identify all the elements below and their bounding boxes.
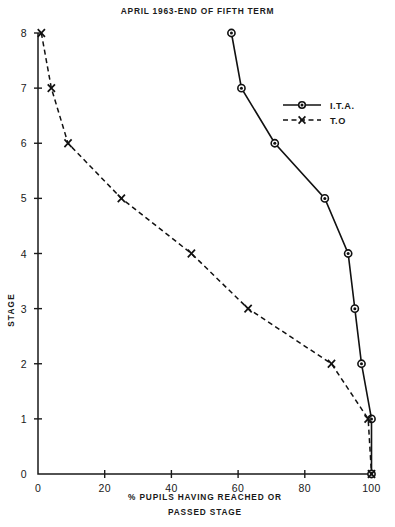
axis-lines <box>38 33 372 474</box>
y-tick-label: 1 <box>21 413 27 425</box>
data-point-marker-dot <box>360 362 363 365</box>
y-tick-label: 7 <box>21 82 27 94</box>
series-line <box>41 33 371 474</box>
y-axis-tick-labels: 012345678 <box>21 27 27 480</box>
data-point-marker-dot <box>323 197 326 200</box>
x-tick-label: 100 <box>362 482 381 494</box>
data-point-marker <box>328 360 335 368</box>
data-point-marker-dot <box>353 307 356 310</box>
y-tick-label: 6 <box>21 137 27 149</box>
data-point-marker-dot <box>273 142 276 145</box>
chart-container: APRIL 1963-END OF FIFTH TERM 012345678 0… <box>0 0 395 527</box>
y-tick-label: 3 <box>21 303 27 315</box>
data-point-marker-dot <box>370 417 373 420</box>
series-ita <box>228 29 375 477</box>
y-tick-label: 2 <box>21 358 27 370</box>
x-tick-label: 20 <box>98 482 110 494</box>
x-axis-title-line1: % PUPILS HAVING REACHED OR <box>128 492 282 502</box>
x-tick-label: 80 <box>299 482 311 494</box>
y-tick-label: 8 <box>21 27 27 39</box>
series-to <box>38 29 375 478</box>
y-axis-title: STAGE <box>7 293 16 327</box>
y-tick-label: 5 <box>21 192 27 204</box>
x-tick-label: 0 <box>35 482 41 494</box>
data-point-marker <box>188 250 195 258</box>
y-tick-label: 4 <box>21 248 27 260</box>
data-point-marker <box>118 195 125 203</box>
data-point-marker <box>64 139 71 147</box>
legend-ita-marker-dot <box>301 104 304 107</box>
data-point-marker-dot <box>240 87 243 90</box>
chart-legend: I.T.A. T.O <box>283 101 354 126</box>
data-point-marker <box>245 305 252 313</box>
x-axis-title-line2: PASSED STAGE <box>168 507 242 517</box>
chart-plot-area: 012345678 020406080100 STAGE % PUPILS HA… <box>0 0 395 527</box>
data-series-layer <box>38 29 375 478</box>
legend-ita-label: I.T.A. <box>330 101 354 111</box>
data-point-marker-dot <box>230 32 233 35</box>
data-point-marker-dot <box>347 252 350 255</box>
y-tick-label: 0 <box>21 468 27 480</box>
legend-to-label: T.O <box>330 116 346 126</box>
